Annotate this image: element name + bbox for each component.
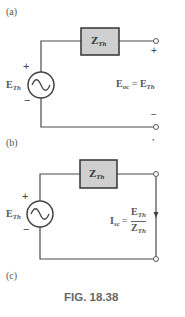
panel-b-equation-fraction: ETh ZTh xyxy=(131,207,146,236)
panel-a-bottom-wire xyxy=(41,98,154,127)
panel-b-source-plus: + xyxy=(22,190,28,202)
panel-a-top-terminal-sign: + xyxy=(151,45,157,56)
panel-b-label: (b) xyxy=(6,137,18,148)
panel-a-source-plus: + xyxy=(23,60,29,72)
panel-a-bottom-terminal-sign: − xyxy=(151,109,157,120)
panel-a-impedance-label: ZTh xyxy=(91,34,107,48)
stray-mark: • xyxy=(152,136,154,144)
panel-b-source-minus: − xyxy=(23,223,29,235)
panel-a-bottom-terminal-icon xyxy=(154,125,159,130)
panel-b-impedance-label: ZTh xyxy=(89,167,105,181)
fraction-numerator: ETh xyxy=(131,207,146,220)
source-subscript: Th xyxy=(13,84,21,92)
den-sub: Th xyxy=(138,227,146,235)
panel-b-current-arrow-icon xyxy=(154,212,159,218)
num-sub: Th xyxy=(138,211,146,219)
panel-b-top-left-wire xyxy=(40,174,80,201)
panel-a-top-terminal-icon xyxy=(154,39,159,44)
panel-a-source-minus: − xyxy=(24,94,30,106)
eq-lhs-sub: oc xyxy=(123,83,130,91)
panel-a-top-left-wire xyxy=(41,41,81,72)
panel-b-source-label: ETh xyxy=(6,208,21,221)
den-symbol: Z xyxy=(131,222,138,233)
panel-a-label: (a) xyxy=(6,6,17,17)
panel-c-label: (c) xyxy=(6,270,17,281)
eq-sign: = xyxy=(132,78,138,89)
eq-sign: = xyxy=(122,215,128,226)
panel-a-equation: Eoc = ETh xyxy=(116,78,155,91)
panel-a-ac-source-icon xyxy=(28,72,54,98)
eq-lhs: E xyxy=(116,78,123,89)
eq-rhs: E xyxy=(140,78,147,89)
fraction-denominator: ZTh xyxy=(131,223,146,236)
panel-b-equation-lhs: Isc= xyxy=(110,215,127,228)
eq-rhs-sub: Th xyxy=(147,83,155,91)
num-symbol: E xyxy=(131,206,138,217)
panel-b-bottom-terminal-icon xyxy=(154,257,159,262)
impedance-subscript: Th xyxy=(96,173,104,181)
panel-b-top-terminal-icon xyxy=(154,172,159,177)
impedance-subscript: Th xyxy=(98,40,106,48)
source-subscript: Th xyxy=(13,213,21,221)
figure-caption: FIG. 18.38 xyxy=(64,291,118,303)
panel-b-ac-source-icon xyxy=(27,201,53,227)
source-symbol: E xyxy=(6,208,13,219)
source-symbol: E xyxy=(6,79,13,90)
eq-lhs-sub: sc xyxy=(114,220,120,228)
panel-a-source-label: ETh xyxy=(6,79,21,92)
